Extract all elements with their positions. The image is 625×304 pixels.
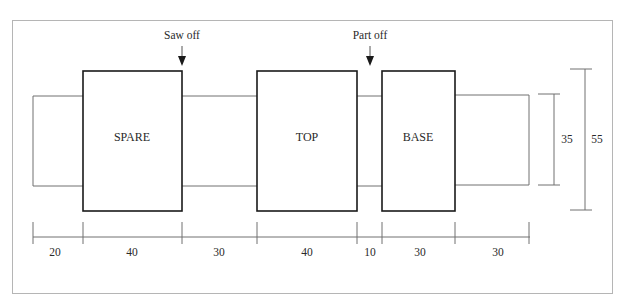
base-label: BASE [403, 130, 434, 144]
machining-diagram: SPARE TOP BASE Saw off Part off 20 40 30… [0, 0, 625, 304]
dim-label-35: 35 [561, 133, 573, 145]
horizontal-dimension-line [33, 222, 530, 244]
part-off-arrow-icon [366, 56, 374, 66]
vertical-dimension-35 [538, 94, 560, 185]
dim-label-7: 30 [492, 246, 504, 258]
dim-label-6: 30 [414, 246, 426, 258]
dim-label-5: 10 [364, 246, 376, 258]
dim-label-1: 20 [49, 246, 61, 258]
dim-label-4: 40 [301, 246, 313, 258]
spare-label: SPARE [114, 130, 150, 144]
top-label: TOP [296, 130, 319, 144]
dim-label-3: 30 [213, 246, 225, 258]
saw-off-arrow-icon [178, 56, 186, 66]
saw-off-label: Saw off [164, 29, 200, 41]
dim-label-2: 40 [126, 246, 138, 258]
part-off-label: Part off [353, 29, 388, 41]
dim-label-55: 55 [591, 133, 603, 145]
vertical-dimension-55 [570, 69, 592, 210]
